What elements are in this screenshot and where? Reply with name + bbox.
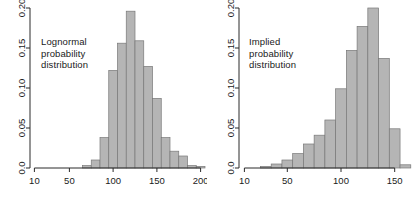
annotation-line-2: probability (249, 48, 296, 60)
panel-implied: 0.00.050.100.150.201050100150 Implied pr… (207, 0, 414, 198)
histogram-bar (336, 89, 347, 168)
histogram-bar (357, 26, 368, 168)
annotation-line-1: Implied (249, 36, 296, 48)
x-axis-tick-label: 10 (239, 175, 250, 186)
y-axis-tick-label: 0.0 (16, 161, 27, 174)
lognormal-annotation: Lognormal probability distribution (41, 36, 88, 71)
histogram-bar (293, 154, 304, 168)
y-axis-tick-label: 0.15 (16, 39, 27, 58)
x-axis-tick-label: 100 (105, 175, 121, 186)
implied-annotation: Implied probability distribution (249, 36, 296, 71)
histogram-bar (91, 160, 100, 168)
histogram-figure: 0.00.050.100.150.201050100150200 Lognorm… (0, 0, 414, 198)
y-axis-tick-label: 0.10 (225, 79, 236, 98)
annotation-line-1: Lognormal (41, 36, 88, 48)
histogram-bar (346, 50, 357, 168)
histogram-bar (144, 66, 153, 168)
y-axis-tick-label: 0.10 (16, 79, 27, 98)
x-axis-tick-label: 50 (282, 175, 293, 186)
histogram-bar (161, 138, 170, 168)
x-axis-tick-label: 10 (29, 175, 40, 186)
histogram-bar (135, 41, 144, 168)
histogram-bar (389, 129, 400, 168)
x-axis-tick-label: 150 (149, 175, 165, 186)
lognormal-plot: 0.00.050.100.150.201050100150200 (0, 0, 207, 198)
histogram-bar (179, 156, 188, 168)
histogram-bar (153, 98, 162, 168)
x-axis-tick-label: 200 (193, 175, 207, 186)
x-axis-tick-label: 50 (64, 175, 75, 186)
histogram-bar (282, 160, 293, 168)
y-axis-tick-label: 0.05 (16, 119, 27, 138)
panel-lognormal: 0.00.050.100.150.201050100150200 Lognorm… (0, 0, 207, 198)
histogram-bar (100, 138, 109, 168)
x-axis-tick-label: 150 (387, 175, 403, 186)
annotation-line-3: distribution (249, 59, 296, 71)
histogram-bar (379, 58, 390, 168)
y-axis-tick-label: 0.20 (225, 0, 236, 17)
x-axis-tick-label: 100 (333, 175, 349, 186)
histogram-bar (303, 144, 314, 168)
y-axis-tick-label: 0.15 (225, 39, 236, 58)
histogram-bar (126, 11, 135, 168)
histogram-bar (170, 151, 179, 168)
histogram-bar (109, 70, 118, 168)
annotation-line-2: probability (41, 48, 88, 60)
histogram-bar (400, 165, 411, 168)
histogram-bar (325, 120, 336, 168)
annotation-line-3: distribution (41, 59, 88, 71)
y-axis-tick-label: 0.0 (225, 161, 236, 174)
histogram-bar (118, 43, 127, 168)
y-axis-tick-label: 0.20 (16, 0, 27, 17)
y-axis-tick-label: 0.05 (225, 119, 236, 138)
implied-plot: 0.00.050.100.150.201050100150 (207, 0, 414, 198)
histogram-bar (271, 164, 282, 168)
histogram-bar (314, 135, 325, 168)
histogram-bar (368, 8, 379, 168)
